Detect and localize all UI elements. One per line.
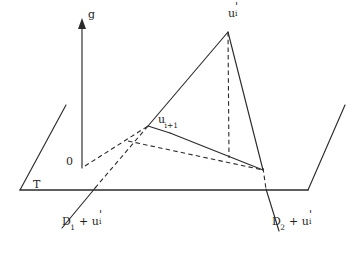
label-d1-term-subscript: i xyxy=(99,218,101,226)
triangle-left-edge xyxy=(148,32,228,126)
label-d2-term-subscript: i xyxy=(309,218,311,226)
label-d2-term-base: u xyxy=(302,215,309,228)
label-d1-operator: + xyxy=(79,215,88,228)
label-d1-term-base: u xyxy=(92,215,99,228)
d1-line-dashed xyxy=(95,126,148,188)
label-mid-subscript: i+1 xyxy=(165,121,178,130)
origin-to-vertex-dashed xyxy=(85,126,148,166)
label-d1-plus-u-prime-i: D1 + u'i xyxy=(62,214,104,230)
label-plane-t: T xyxy=(33,179,40,190)
label-d2-operator: + xyxy=(289,215,298,228)
label-d1-subscript: 1 xyxy=(70,223,75,232)
hidden-base-dashed xyxy=(128,141,263,170)
label-apex-subscript: i xyxy=(235,10,237,18)
right-plane-edge xyxy=(308,105,345,190)
label-d1-script-stack: 'i xyxy=(99,214,104,225)
diagram-canvas: u'i ui+1 g 0 T D1 + u'i D2 + u'i xyxy=(0,0,364,253)
label-u-i-plus-1: ui+1 xyxy=(158,114,179,128)
label-apex-script-stack: 'i xyxy=(235,6,240,17)
label-d2-script-stack: 'i xyxy=(309,214,314,225)
label-origin-zero: 0 xyxy=(66,156,73,167)
label-d2-plus-u-prime-i: D2 + u'i xyxy=(272,214,314,230)
label-apex-base: u xyxy=(228,7,235,20)
label-d2-subscript: 2 xyxy=(280,223,285,232)
label-apex-u-prime-i: u'i xyxy=(228,6,240,19)
triangle-right-edge xyxy=(228,32,263,170)
left-plane-edge xyxy=(20,105,66,190)
g-axis-arrowhead xyxy=(78,18,86,29)
triangle-base-edge xyxy=(170,133,263,170)
d2-line-dashed xyxy=(263,168,266,189)
label-axis-g: g xyxy=(88,9,95,20)
apex-altitude-dashed xyxy=(228,32,229,158)
